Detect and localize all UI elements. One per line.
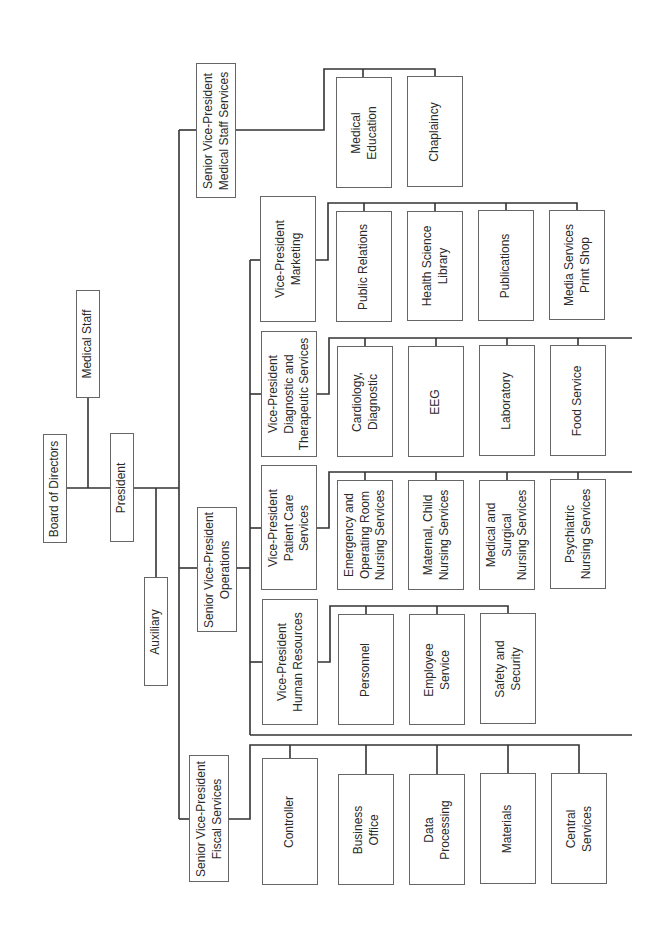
- employee-service-box: Employee Service: [409, 614, 465, 725]
- central-services-label: Central Services: [564, 805, 595, 851]
- controller-box: Controller: [262, 758, 318, 885]
- health-science-library-label: Health Science Library: [420, 226, 451, 307]
- vp-marketing-label: Vice-President Marketing: [273, 220, 304, 298]
- publications-box: Publications: [478, 210, 534, 321]
- vp-patient-care-label: Vice-President Patient Care Services: [266, 489, 313, 567]
- food-service-label: Food Service: [570, 365, 586, 436]
- business-office-box: Business Office: [338, 774, 394, 885]
- cardiology-box: Cardiology, Diagnostic: [337, 346, 393, 457]
- employee-service-label: Employee Service: [422, 643, 453, 696]
- central-services-box: Central Services: [551, 773, 607, 884]
- medical-surgical-nursing-box: Medical and Surgical Nursing Services: [479, 480, 535, 590]
- vp-human-resources-label: Vice-President Human Resources: [275, 612, 306, 711]
- cardiology-label: Cardiology, Diagnostic: [350, 372, 381, 432]
- medical-staff-box: Medical Staff: [76, 290, 100, 398]
- president-label: President: [114, 462, 130, 513]
- laboratory-label: Laboratory: [499, 372, 515, 429]
- personnel-label: Personnel: [358, 642, 374, 696]
- medical-staff-label: Medical Staff: [80, 309, 96, 378]
- data-processing-label: Data Processing: [422, 800, 453, 859]
- personnel-box: Personnel: [338, 614, 394, 725]
- maternal-child-nursing-box: Maternal, Child Nursing Services: [408, 480, 464, 590]
- eeg-box: EEG: [408, 346, 464, 457]
- data-processing-box: Data Processing: [409, 774, 465, 885]
- psychiatric-nursing-label: Psychiatric Nursing Services: [563, 489, 594, 580]
- laboratory-box: Laboratory: [479, 345, 535, 456]
- psychiatric-nursing-box: Psychiatric Nursing Services: [550, 479, 606, 589]
- svp-operations-label: Senior Vice-President Operations: [202, 512, 233, 628]
- food-service-box: Food Service: [550, 345, 606, 456]
- health-science-library-box: Health Science Library: [407, 211, 463, 321]
- materials-label: Materials: [500, 804, 516, 853]
- auxiliary-box: Auxiliary: [144, 577, 168, 686]
- chaplaincy-label: Chaplaincy: [427, 102, 443, 161]
- media-services-box: Media Services Print Shop: [549, 210, 605, 320]
- president-box: President: [110, 433, 134, 542]
- medical-education-box: Medical Education: [336, 77, 392, 188]
- svp-operations-box: Senior Vice-President Operations: [197, 507, 237, 632]
- public-relations-label: Public Relations: [356, 223, 372, 309]
- safety-security-box: Safety and Security: [480, 613, 536, 724]
- vp-marketing-box: Vice-President Marketing: [260, 196, 316, 322]
- vp-diagnostic-therapeutic-label: Vice-President Diagnostic and Therapeuti…: [266, 338, 313, 451]
- safety-security-label: Safety and Security: [493, 640, 524, 697]
- business-office-label: Business Office: [351, 805, 382, 854]
- svp-medical-staff-services-label: Senior Vice-President Medical Staff Serv…: [201, 71, 232, 190]
- controller-label: Controller: [282, 795, 298, 847]
- maternal-child-nursing-label: Maternal, Child Nursing Services: [421, 490, 452, 581]
- emergency-or-nursing-box: Emergency and Operating Room Nursing Ser…: [337, 480, 393, 590]
- medical-education-label: Medical Education: [349, 106, 380, 159]
- vp-diagnostic-therapeutic-box: Vice-President Diagnostic and Therapeuti…: [261, 331, 317, 457]
- emergency-or-nursing-label: Emergency and Operating Room Nursing Ser…: [342, 490, 389, 581]
- auxiliary-label: Auxiliary: [148, 609, 164, 654]
- eeg-label: EEG: [428, 389, 444, 414]
- svp-fiscal-services-box: Senior Vice-President Fiscal Services: [189, 755, 229, 882]
- board-of-directors-label: Board of Directors: [47, 440, 63, 537]
- materials-box: Materials: [480, 773, 536, 884]
- public-relations-box: Public Relations: [336, 211, 392, 322]
- publications-label: Publications: [498, 233, 514, 298]
- chaplaincy-box: Chaplaincy: [407, 76, 463, 187]
- medical-surgical-nursing-label: Medical and Surgical Nursing Services: [484, 490, 531, 581]
- vp-patient-care-box: Vice-President Patient Care Services: [261, 465, 317, 590]
- vp-human-resources-box: Vice-President Human Resources: [262, 599, 318, 725]
- board-of-directors-box: Board of Directors: [43, 434, 67, 543]
- svp-medical-staff-services-box: Senior Vice-President Medical Staff Serv…: [196, 63, 236, 198]
- media-services-label: Media Services Print Shop: [562, 224, 593, 306]
- svp-fiscal-services-label: Senior Vice-President Fiscal Services: [194, 761, 225, 877]
